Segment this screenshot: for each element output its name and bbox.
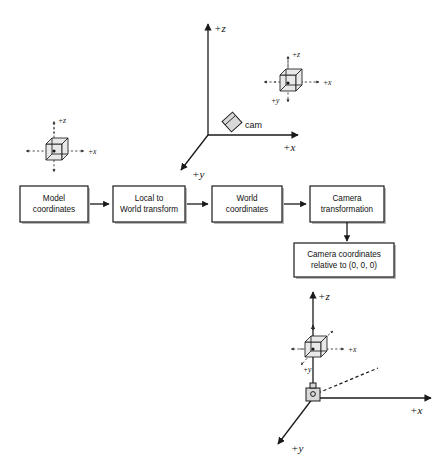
pipeline-box-local-to-world[interactable]: Local to World transform [113,186,187,224]
world-x-axis-label: +x [283,141,295,153]
world-cube-group: +x +z +y [264,50,332,105]
pipeline-box-camera-coordinates-line2: relative to (0, 0, 0) [311,261,377,270]
pipeline-box-camera-coordinates[interactable]: Camera coordinates relative to (0, 0, 0) [294,243,396,279]
pipeline-diagram: +z +x +y cam +x +z [0,0,446,456]
model-cube [46,138,68,160]
world-coordinate-system: +z +x +y cam +x +z [181,22,332,180]
world-cube [280,69,302,91]
camera-origin-icon [306,383,320,401]
camera-cube [305,336,327,357]
camera-icon [222,112,242,132]
model-z-axis-label: +z [58,116,66,125]
pipeline-box-camera-transformation[interactable]: Camera transformation [310,186,386,224]
camera-y-axis [278,398,313,444]
pipeline-box-camera-transformation-line2: transformation [321,205,374,214]
pipeline-box-model-coordinates-line2: coordinates [33,205,75,214]
camera-y-axis-label: +y [291,442,303,454]
camera-cube-group: +x +y [291,331,357,374]
pipeline-box-model-coordinates[interactable]: Model coordinates [20,186,90,224]
camera-x-axis-label: +x [410,404,422,416]
diagram-canvas: +z +x +y cam +x +z [0,0,446,456]
world-cube-y-label: +y [271,96,280,105]
camera-cube-x-label: +x [348,345,357,354]
pipeline-box-world-coordinates-line1: World [236,194,258,203]
world-y-axis [181,135,208,170]
world-y-axis-label: +y [192,168,204,180]
pipeline-box-model-coordinates-line1: Model [43,194,65,203]
model-coordinate-system: +z +x [26,116,97,172]
world-z-axis-label: +z [214,22,226,34]
pipeline-box-local-to-world-line2: World transform [120,205,178,214]
camera-cube-y-label: +y [303,365,312,374]
pipeline-box-camera-transformation-line1: Camera [332,194,362,203]
world-cube-x-label: +x [323,78,332,87]
pipeline-box-local-to-world-line1: Local to [135,194,164,203]
world-cube-z-label: +z [292,50,300,59]
pipeline-box-camera-coordinates-line1: Camera coordinates [307,250,381,259]
camera-icon-label: cam [245,120,262,130]
pipeline-box-world-coordinates-line2: coordinates [226,205,268,214]
camera-view-direction [318,368,378,393]
model-x-axis-label: +x [88,147,97,156]
camera-z-axis-label: +z [318,290,330,302]
pipeline-flow: Model coordinates Local to World transfo… [20,186,396,279]
camera-coordinate-system: +z +x +y +x [278,290,431,454]
pipeline-box-world-coordinates[interactable]: World coordinates [212,186,284,224]
